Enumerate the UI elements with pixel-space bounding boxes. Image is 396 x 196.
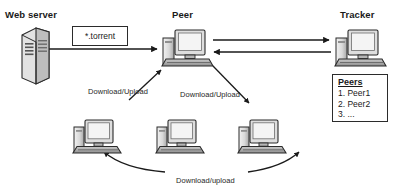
connection-peercenter-to-peerleft [104, 152, 165, 172]
connection-peercenter-to-peerright [248, 152, 299, 172]
tracker-computer-icon [335, 30, 386, 66]
torrent-file-box: *.torrent [72, 26, 128, 46]
peer-computer-left-icon [73, 120, 121, 153]
edge-label-download-upload-left: Download/Upload [88, 87, 148, 96]
edge-label-download-upload-bottom: Download/upload [176, 176, 235, 185]
edge-label-download-upload-right: Download/Upload [180, 90, 240, 99]
peer-computer-icon [162, 30, 213, 66]
peers-list-item: 2. Peer2 [338, 99, 383, 110]
peers-list-title: Peers [338, 77, 383, 88]
peer-computer-center-icon [156, 120, 204, 153]
peers-list-box: Peers 1. Peer1 2. Peer2 3. ... [332, 74, 388, 122]
bittorrent-architecture-diagram: Web server Peer Tracker *.torrent Peers … [0, 0, 396, 196]
web-server-icon [22, 28, 49, 84]
peer-computer-right-icon [238, 120, 286, 153]
torrent-file-label: *.torrent [85, 31, 115, 41]
node-title-web-server: Web server [5, 9, 57, 20]
node-title-peer: Peer [172, 9, 193, 20]
node-title-tracker: Tracker [340, 9, 375, 20]
peers-list-item: 3. ... [338, 109, 383, 120]
peers-list-item: 1. Peer1 [338, 88, 383, 99]
